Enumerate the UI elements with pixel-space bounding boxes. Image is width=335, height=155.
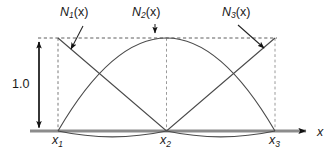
figure-canvas bbox=[0, 0, 335, 155]
curve-label-n2-arg: (x) bbox=[146, 5, 161, 19]
node-label-x2-subscript: 2 bbox=[166, 139, 171, 149]
node-label-x2: x2 bbox=[160, 134, 171, 148]
shape-functions-figure: N1(x) N2(x) N3(x) 1.0 x1 x2 x3 x bbox=[0, 0, 335, 155]
curve-label-n3-arg: (x) bbox=[236, 5, 251, 19]
node-label-x1: x1 bbox=[52, 134, 63, 148]
curve-label-n3: N3(x) bbox=[222, 6, 250, 20]
node-label-x1-subscript: 1 bbox=[58, 139, 63, 149]
curve-label-n1: N1(x) bbox=[60, 6, 88, 20]
node-label-x3-subscript: 3 bbox=[275, 139, 280, 149]
curve-n2 bbox=[58, 38, 275, 131]
dimension-label: 1.0 bbox=[12, 78, 29, 91]
curve-label-n2-base: N bbox=[132, 5, 141, 19]
axis-label-x: x bbox=[317, 126, 323, 139]
curve-label-n2: N2(x) bbox=[132, 6, 160, 20]
leader-n3 bbox=[238, 25, 264, 48]
node-label-x3: x3 bbox=[269, 134, 280, 148]
curve-label-n3-base: N bbox=[222, 5, 231, 19]
curve-label-n1-base: N bbox=[60, 5, 69, 19]
curve-label-n1-arg: (x) bbox=[74, 5, 89, 19]
